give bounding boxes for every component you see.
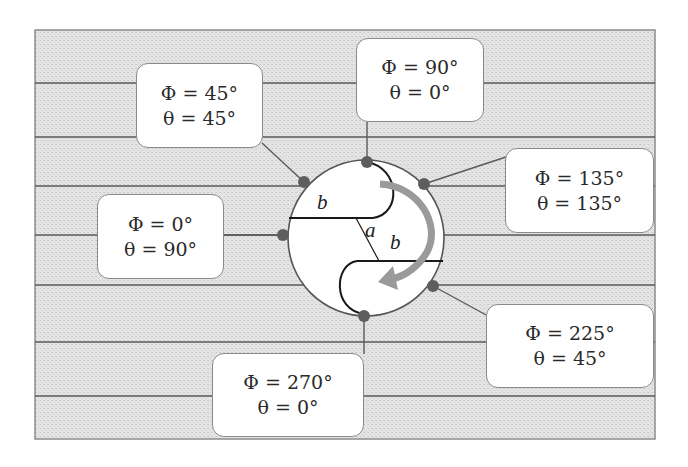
- diagram-canvas: b a b Φ = 90° θ = 0° Φ = 45° θ = 45° Φ =…: [0, 0, 688, 467]
- dot-phi-270: [358, 310, 370, 322]
- phi-value: Φ = 225°: [525, 321, 614, 346]
- theta-value: θ = 45°: [163, 106, 236, 131]
- theta-value: θ = 0°: [257, 395, 318, 420]
- phi-value: Φ = 270°: [243, 370, 332, 395]
- phi-value: Φ = 90°: [381, 55, 458, 80]
- theta-value: θ = 0°: [389, 80, 450, 105]
- dot-phi-0: [277, 229, 289, 241]
- label-b-lower: b: [390, 232, 401, 253]
- theta-value: θ = 90°: [124, 237, 197, 262]
- label-box-phi-270: Φ = 270° θ = 0°: [212, 353, 364, 437]
- label-a: a: [365, 220, 376, 241]
- label-b-upper: b: [317, 192, 328, 213]
- theta-value: θ = 45°: [533, 346, 606, 371]
- dot-phi-135: [418, 178, 430, 190]
- dot-phi-90: [361, 156, 373, 168]
- label-box-phi-135: Φ = 135° θ = 135°: [505, 148, 654, 233]
- label-box-phi-0: Φ = 0° θ = 90°: [97, 194, 224, 279]
- label-box-phi-45: Φ = 45° θ = 45°: [136, 63, 263, 148]
- label-box-phi-90: Φ = 90° θ = 0°: [356, 38, 484, 122]
- phi-value: Φ = 45°: [161, 81, 238, 106]
- theta-value: θ = 135°: [537, 191, 622, 216]
- phi-value: Φ = 135°: [535, 166, 624, 191]
- label-box-phi-225: Φ = 225° θ = 45°: [486, 304, 654, 388]
- dot-phi-45: [298, 176, 310, 188]
- dot-phi-225: [427, 280, 439, 292]
- phi-value: Φ = 0°: [128, 212, 193, 237]
